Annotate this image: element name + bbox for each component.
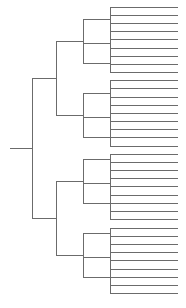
internal-branches bbox=[32, 7, 110, 293]
leaf-branches bbox=[110, 7, 178, 293]
dendrogram-canvas bbox=[0, 0, 186, 308]
dendrogram-figure bbox=[0, 0, 186, 308]
